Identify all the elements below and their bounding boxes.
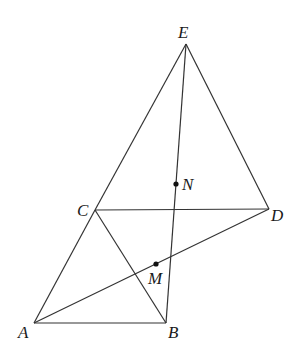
labels-group: ECDABNM [17,23,284,342]
label-d: D [270,206,284,225]
label-n: N [181,175,195,194]
label-e: E [177,23,189,42]
label-b: B [168,323,179,342]
geometry-figure: ECDABNM [0,0,300,361]
point-n-dot [173,181,178,186]
label-m: M [147,269,163,288]
segment-ad [34,209,269,323]
label-c: C [77,201,89,220]
point-m-dot [153,261,158,266]
segment-ed [186,44,269,209]
segment-ec [95,44,186,210]
segment-ca [34,210,95,323]
label-a: A [17,323,29,342]
segment-cd [95,209,269,210]
